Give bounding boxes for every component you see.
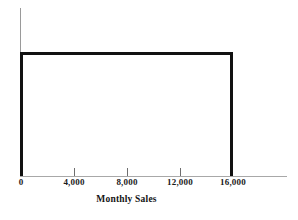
x-axis-tick-label-0: 0 — [19, 177, 24, 187]
x-axis-tick-label-4000: 4,000 — [63, 177, 84, 187]
x-axis-title: Monthly Sales — [0, 194, 253, 204]
x-axis-tick-label-8000: 8,000 — [116, 177, 137, 187]
uniform-density-rectangle — [20, 52, 233, 176]
uniform-distribution-chart: 0 4,000 8,000 12,000 16,000 Monthly Sale… — [0, 0, 298, 220]
x-axis-tick-label-12000: 12,000 — [167, 177, 193, 187]
x-axis-line — [20, 176, 287, 177]
x-axis-tick-label-16000: 16,000 — [220, 177, 246, 187]
